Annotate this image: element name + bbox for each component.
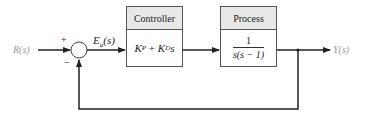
process-numerator: 1: [242, 35, 255, 47]
controller-block: Controller KP + KDs: [126, 6, 183, 67]
error-label-tail: (s): [103, 34, 115, 46]
controller-transfer-function: KP + KDs: [127, 29, 182, 66]
kd-tail: s: [170, 42, 174, 54]
plus-sign: +: [61, 35, 67, 45]
output-label: Y(s): [333, 45, 349, 55]
process-block: Process 1 s(s − 1): [220, 6, 277, 67]
process-denominator: s(s − 1): [233, 48, 264, 60]
error-signal-label: Ea(s): [93, 35, 115, 49]
signal-lines: [0, 0, 366, 116]
error-label-main: E: [93, 34, 100, 46]
summing-junction: [71, 42, 87, 58]
process-title: Process: [221, 7, 276, 30]
plus-op: +: [146, 42, 158, 54]
controller-title: Controller: [127, 7, 182, 30]
input-label: R(s): [13, 45, 30, 55]
minus-sign: −: [64, 58, 70, 68]
process-transfer-function: 1 s(s − 1): [221, 29, 276, 66]
process-fraction: 1 s(s − 1): [233, 35, 264, 60]
kp-main: K: [134, 42, 141, 54]
